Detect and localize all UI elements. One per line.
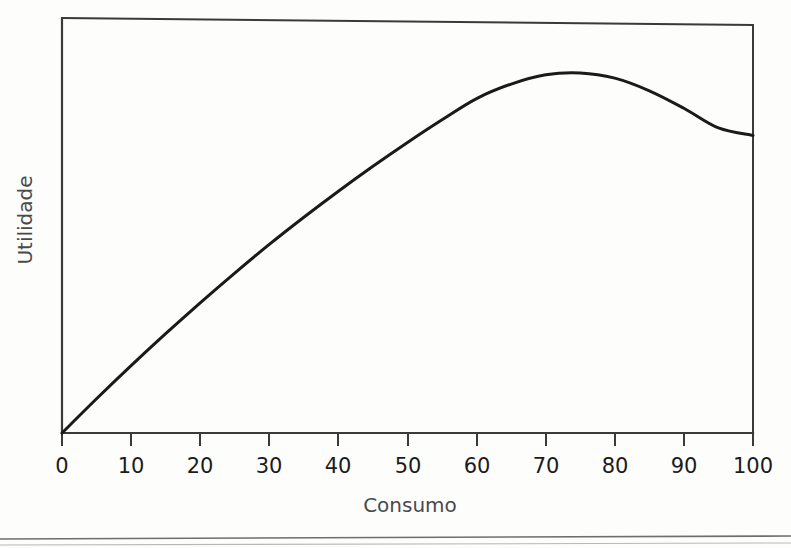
utility-curve bbox=[62, 73, 753, 433]
utility-curve-chart: 0 10 20 30 40 50 60 70 80 90 100 Consumo… bbox=[0, 0, 791, 548]
x-axis-title: Consumo bbox=[363, 493, 457, 517]
x-tick-label: 50 bbox=[395, 454, 422, 478]
x-tick-label: 70 bbox=[533, 454, 560, 478]
x-tick-label: 80 bbox=[602, 454, 629, 478]
figure-container: 0 10 20 30 40 50 60 70 80 90 100 Consumo… bbox=[0, 0, 791, 548]
page-divider-rule bbox=[0, 536, 791, 539]
x-tick-label: 60 bbox=[464, 454, 491, 478]
x-axis-ticks bbox=[62, 433, 753, 446]
x-tick-label: 30 bbox=[256, 454, 283, 478]
x-tick-label: 40 bbox=[325, 454, 352, 478]
x-tick-label: 20 bbox=[187, 454, 214, 478]
x-tick-label: 10 bbox=[118, 454, 145, 478]
x-tick-label: 100 bbox=[733, 454, 773, 478]
y-axis-title: Utilidade bbox=[13, 175, 37, 264]
x-tick-label: 0 bbox=[55, 454, 68, 478]
page-divider-rule-secondary bbox=[0, 543, 791, 545]
x-tick-label: 90 bbox=[671, 454, 698, 478]
x-axis-tick-labels: 0 10 20 30 40 50 60 70 80 90 100 bbox=[55, 454, 773, 478]
plot-frame bbox=[62, 18, 753, 433]
